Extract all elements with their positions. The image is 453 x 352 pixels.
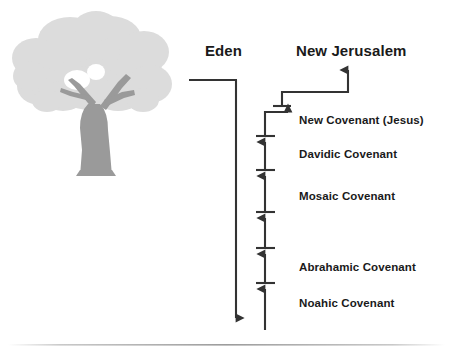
covenant-label-new: New Covenant (Jesus) (299, 114, 424, 126)
new-jerusalem-heading: New Jerusalem (296, 42, 407, 59)
eden-path (189, 80, 237, 318)
eden-heading: Eden (205, 42, 242, 59)
new-jerusalem-path (273, 70, 348, 106)
covenant-ladder (256, 112, 288, 330)
covenant-timeline-diagram: Eden New Jerusalem New Covenant (Jesus) … (0, 0, 453, 352)
covenant-label-mosaic: Mosaic Covenant (299, 190, 395, 202)
covenant-label-noahic: Noahic Covenant (299, 297, 394, 309)
tree-icon (12, 11, 172, 176)
covenant-label-davidic: Davidic Covenant (299, 148, 397, 160)
covenant-label-abrahamic: Abrahamic Covenant (299, 261, 416, 273)
bottom-divider (8, 344, 445, 346)
